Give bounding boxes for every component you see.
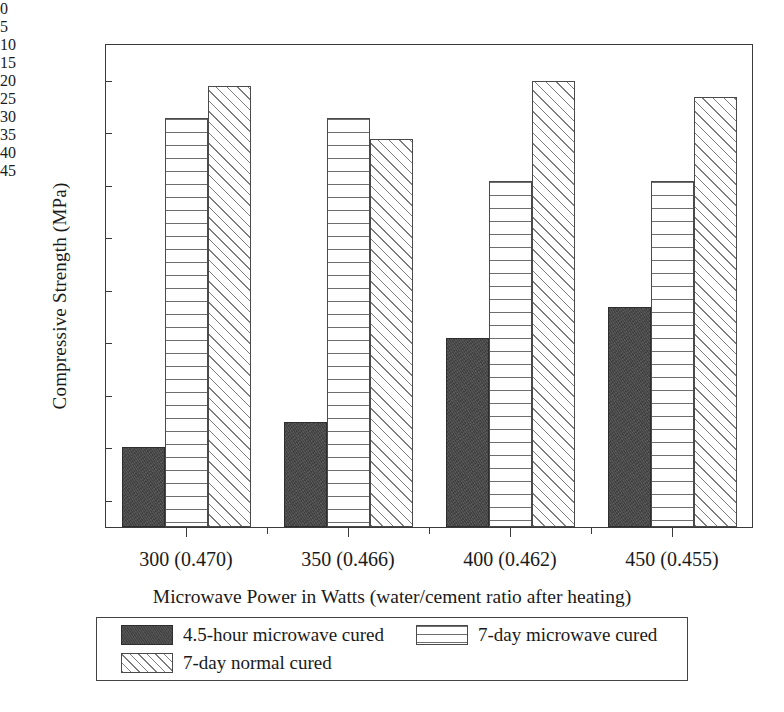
x-tick-mark-3 <box>672 527 673 537</box>
y-tick-minor-mark <box>105 343 112 344</box>
x-tick-minor-mark-1 <box>267 527 268 534</box>
bar-1-1 <box>327 118 370 528</box>
legend-label-2: 7-day normal cured <box>183 652 332 674</box>
legend-swatch-horizontal-lines <box>416 625 468 645</box>
y-tick-minor-mark <box>105 186 112 187</box>
bar-2-0 <box>446 338 489 527</box>
x-tick-mark-0 <box>186 527 187 537</box>
y-tick-minor-mark <box>105 396 112 397</box>
y-tick-minor-mark <box>105 501 112 502</box>
bar-1-2 <box>370 139 413 528</box>
legend-swatch-solid-dark <box>121 625 173 645</box>
y-tick-minor-mark <box>105 133 112 134</box>
bar-1-0 <box>284 422 327 527</box>
x-tick-minor-mark-2 <box>429 527 430 534</box>
y-axis-title: Compressive Strength (MPa) <box>49 86 71 506</box>
legend-swatch-diagonal-hatch <box>121 653 173 673</box>
x-tick-label-3: 450 (0.455) <box>572 548 772 571</box>
y-tick-label: 5 <box>0 18 784 36</box>
bar-2-2 <box>532 81 575 527</box>
legend: 4.5-hour microwave cured 7-day microwave… <box>96 617 688 681</box>
x-tick-mark-1 <box>348 527 349 537</box>
legend-item-1: 7-day microwave cured <box>392 624 687 646</box>
legend-item-0: 4.5-hour microwave cured <box>97 624 392 646</box>
y-tick-minor-mark <box>105 238 112 239</box>
bar-0-1 <box>165 118 208 528</box>
chart-figure: Compressive Strength (MPa) 0510152025303… <box>0 0 784 712</box>
bar-2-1 <box>489 181 532 528</box>
y-tick-label: 0 <box>0 0 784 18</box>
bar-0-0 <box>122 447 165 527</box>
bar-3-1 <box>651 181 694 528</box>
legend-item-2: 7-day normal cured <box>97 652 392 674</box>
bar-3-0 <box>608 307 651 528</box>
bar-3-2 <box>694 97 737 528</box>
legend-label-1: 7-day microwave cured <box>478 624 657 646</box>
x-tick-minor-mark-3 <box>591 527 592 534</box>
x-tick-mark-2 <box>510 527 511 537</box>
bar-0-2 <box>208 86 251 527</box>
y-tick-minor-mark <box>105 448 112 449</box>
legend-grid: 4.5-hour microwave cured 7-day microwave… <box>97 618 687 680</box>
y-tick-minor-mark <box>105 81 112 82</box>
legend-label-0: 4.5-hour microwave cured <box>183 624 384 646</box>
plot-area: Compressive Strength (MPa) 0510152025303… <box>0 0 784 712</box>
y-tick-minor-mark <box>105 291 112 292</box>
x-axis-title: Microwave Power in Watts (water/cement r… <box>0 586 784 608</box>
